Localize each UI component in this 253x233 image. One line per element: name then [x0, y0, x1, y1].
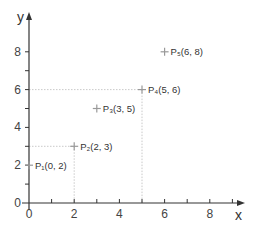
data-point-p4: P₄(5, 6)	[138, 84, 180, 95]
ticks: 0246802468	[14, 45, 232, 221]
x-tick-label: 0	[26, 207, 33, 221]
y-tick-label: 6	[14, 83, 21, 97]
x-tick-label: 8	[206, 207, 213, 221]
data-point-p1: P₁(0, 2)	[25, 160, 67, 171]
data-points: P₁(0, 2)P₂(2, 3)P₃(3, 5)P₄(5, 6)P₅(6, 8)	[25, 46, 203, 170]
x-tick-label: 2	[71, 207, 78, 221]
data-point-p5: P₅(6, 8)	[161, 46, 203, 57]
y-axis-arrow-icon	[26, 12, 32, 20]
y-tick-label: 0	[14, 196, 21, 210]
point-label: P₁(0, 2)	[35, 160, 67, 171]
point-label: P₄(5, 6)	[148, 84, 180, 95]
scatter-chart: x y 0246802468 P₁(0, 2)P₂(2, 3)P₃(3, 5)P…	[0, 0, 253, 233]
axes: x y	[17, 9, 245, 223]
point-label: P₅(6, 8)	[171, 46, 203, 57]
y-tick-label: 2	[14, 158, 21, 172]
x-axis-arrow-icon	[237, 200, 245, 206]
x-tick-label: 6	[161, 207, 168, 221]
data-point-p2: P₂(2, 3)	[70, 141, 112, 152]
y-axis-label: y	[17, 9, 24, 25]
data-point-p3: P₃(3, 5)	[93, 103, 135, 114]
x-tick-label: 4	[116, 207, 123, 221]
x-axis-label: x	[235, 207, 242, 223]
y-tick-label: 8	[14, 45, 21, 59]
point-label: P₂(2, 3)	[80, 141, 112, 152]
point-label: P₃(3, 5)	[103, 103, 135, 114]
y-tick-label: 4	[14, 120, 21, 134]
